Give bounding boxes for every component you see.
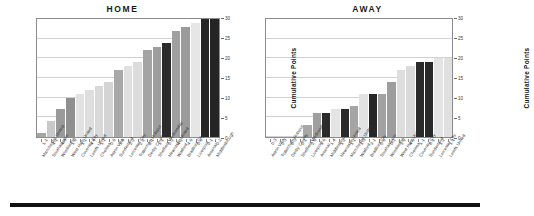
tick-mark — [221, 18, 224, 19]
bar — [425, 62, 434, 137]
x-axis-category: 1-1Coventry City — [75, 139, 85, 195]
x-axis-category: 0-3Derby County — [285, 139, 295, 195]
y-axis-label-away-right: Cumulative Points — [466, 18, 534, 138]
bar — [76, 94, 86, 137]
x-axis-category: 0-1Sheffield Wednesday — [295, 139, 305, 195]
x-axis-category: 5-0Sunderland — [114, 139, 124, 195]
y-axis-tick-label: 10 — [458, 95, 463, 100]
y-axis-tick-label: 10 — [225, 95, 230, 100]
chart-title-home: HOME — [0, 4, 245, 14]
y-axis-tick-label: 20 — [458, 55, 463, 60]
y-axis-tick-label: 25 — [225, 35, 230, 40]
bar — [162, 43, 172, 137]
bar-series-home — [37, 19, 219, 137]
x-axis-category: 1-1Chelsea — [94, 139, 104, 195]
y-axis-label-away-left: Cumulative Points — [233, 18, 353, 138]
x-axis-category: 3-1Bradford City — [364, 139, 374, 195]
bar — [406, 66, 415, 137]
y-axis-tick-label: 25 — [458, 35, 463, 40]
bar — [210, 19, 219, 137]
x-axis-category: 0-1Arsenal — [201, 139, 211, 195]
x-axis-category: 1-2Leicester City — [433, 139, 443, 195]
x-axis-category: 2-2Leicester City — [123, 139, 133, 195]
x-axis-category: 3-0West Ham United — [394, 139, 404, 195]
bar — [66, 98, 76, 137]
bar — [387, 82, 396, 137]
x-axis-category: 1-4Middlesbrough — [324, 139, 334, 195]
bar — [104, 82, 114, 137]
x-axis-category: 4-1Southampton — [46, 139, 56, 195]
x-axis-category: 0-0Southampton — [374, 139, 384, 195]
x-axis-category: 2-2Tottenham Hotspur — [133, 139, 143, 195]
bar — [444, 58, 452, 137]
x-axis-category: 0-3Tottenham Hotspur — [275, 139, 285, 195]
tick-mark — [221, 57, 224, 58]
tick-mark — [454, 18, 457, 19]
tick-mark — [221, 78, 224, 79]
x-axis-category: 0-2Wimbledon — [384, 139, 394, 195]
tick-mark — [454, 37, 457, 38]
bar — [124, 66, 134, 137]
y-axis-tick-label: 15 — [225, 76, 230, 81]
x-axis-category: 2-1Derby County — [143, 139, 153, 195]
x-axis-category: 1-1Coventry City — [413, 139, 423, 195]
tick-mark — [221, 97, 224, 98]
bar — [181, 27, 191, 137]
bar — [95, 86, 105, 137]
x-axis-categories-away: 0-3Aston Villa0-3Tottenham Hotspur0-3Der… — [265, 139, 453, 195]
footer-rule — [10, 203, 480, 207]
y-axis-tick-label: 5 — [458, 116, 461, 121]
x-axis-category: 2-0Liverpool — [305, 139, 315, 195]
x-axis-category: 0-1Sunderland — [423, 139, 433, 195]
bar — [434, 58, 443, 137]
x-axis-category: 1-1Sheffield Wednesday — [152, 139, 162, 195]
tick-mark — [454, 78, 457, 79]
bar — [133, 62, 143, 137]
bar — [114, 70, 124, 137]
x-axis-category: 1-0Arsenal — [314, 139, 324, 195]
x-axis-category: 1-3Watford — [354, 139, 364, 195]
bar — [201, 19, 211, 137]
tick-mark — [221, 118, 224, 119]
x-axis-category: 1-0West Ham United — [65, 139, 75, 195]
x-axis-category: 1-2Newcastle United — [334, 139, 344, 195]
y-axis-tick-label: 20 — [225, 55, 230, 60]
y-axis-tick-label: 30 — [458, 16, 463, 21]
y-axis-tick-label: 5 — [225, 116, 228, 121]
x-axis-category: 4-4Leeds United — [84, 139, 94, 195]
tick-mark — [454, 118, 457, 119]
bar — [378, 94, 387, 137]
chart-panel-away: AWAY Cumulative Points 051015202530 Cumu… — [245, 0, 490, 195]
tick-mark — [221, 37, 224, 38]
chart-panel-home: HOME 051015202530 Cumulative Points 1-1M… — [0, 0, 245, 195]
x-axis-category: 0-0Aston Villa — [104, 139, 114, 195]
x-axis-category: 4-2Watford — [172, 139, 182, 195]
x-axis-category: 1-1Leeds United — [443, 139, 453, 195]
x-axis-category: 4-0Chelsea — [403, 139, 413, 195]
bar — [143, 50, 153, 137]
plot-area-home — [36, 18, 220, 138]
bar — [397, 70, 406, 137]
x-axis-category: 1-1Manchester United — [344, 139, 354, 195]
y-axis-tick-label: 15 — [458, 76, 463, 81]
bar — [191, 23, 201, 137]
x-axis-category: 0-2Newcastle United — [162, 139, 172, 195]
x-axis-category: 4-0Wimbledon — [55, 139, 65, 195]
y-axis-tick-label: 30 — [225, 16, 230, 21]
tick-mark — [454, 97, 457, 98]
x-axis-category: 0-0Liverpool — [191, 139, 201, 195]
tick-mark — [454, 57, 457, 58]
chart-title-away: AWAY — [245, 4, 490, 14]
charts-container: HOME 051015202530 Cumulative Points 1-1M… — [0, 0, 490, 195]
x-axis-categories-home: 1-1Manchester United4-1Southampton4-0Wim… — [36, 139, 220, 195]
x-axis-category: 0-3Aston Villa — [265, 139, 275, 195]
x-axis-category: 1-1Manchester United — [36, 139, 46, 195]
x-axis-category: 4-0Bradford City — [181, 139, 191, 195]
x-axis-category: 0-2Middlesbrough — [210, 139, 220, 195]
